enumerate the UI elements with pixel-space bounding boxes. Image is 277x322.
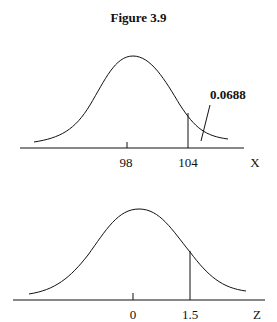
bottom-normal-plot: 0 1.5 Z <box>13 209 265 322</box>
top-normal-plot: 0.0688 98 104 X <box>20 56 260 170</box>
tail-area-label: 0.0688 <box>210 87 246 102</box>
bottom-mean-label: 0 <box>130 307 137 322</box>
top-cutoff-label: 104 <box>178 155 198 170</box>
bottom-normal-curve <box>29 209 246 294</box>
figure-canvas: 0.0688 98 104 X 0 1.5 Z <box>0 0 277 322</box>
top-axis-label: X <box>250 155 260 170</box>
bottom-cutoff-label: 1.5 <box>182 307 198 322</box>
top-mean-label: 98 <box>120 155 133 170</box>
top-area-pointer <box>201 105 210 141</box>
top-normal-curve <box>34 56 228 142</box>
bottom-axis-label: Z <box>253 307 261 322</box>
